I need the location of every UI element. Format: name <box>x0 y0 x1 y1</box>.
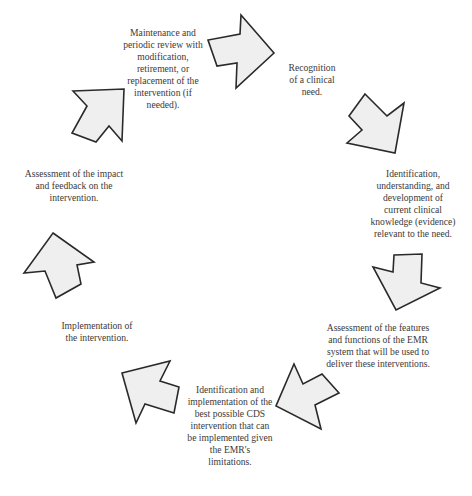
arrow-up-icon <box>24 233 94 298</box>
step-maintenance-label: Maintenance and periodic review with mod… <box>118 27 208 111</box>
step-implementation-label: Implementation of the intervention. <box>52 320 142 344</box>
step-recognition-label: Recognition of a clinical need. <box>276 62 348 98</box>
step-emr-assessment-label: Assessment of the features and functions… <box>318 322 438 370</box>
arrow-up-right-icon <box>72 89 124 142</box>
arrow-down-right-icon <box>347 94 404 153</box>
arrow-up-left-icon <box>122 361 179 423</box>
step-cds-design-label: Identification and implementation of the… <box>180 384 280 468</box>
step-impact-assessment-label: Assessment of the impact and feedback on… <box>18 168 130 204</box>
step-evidence-label: Identification, understanding, and devel… <box>355 168 471 240</box>
arrow-right-icon <box>208 15 274 88</box>
arrow-down-left-icon <box>276 364 339 429</box>
arrow-down-icon <box>373 254 440 310</box>
cds-lifecycle-diagram: Recognition of a clinical need. Identifi… <box>0 0 472 496</box>
